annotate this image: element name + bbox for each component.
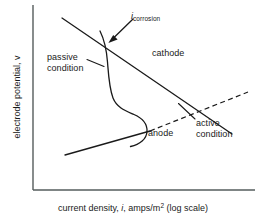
axis-lines <box>33 5 255 190</box>
active-condition-line <box>65 131 150 155</box>
y-axis-title-text: electrode potential, <box>12 60 22 139</box>
passive-condition-line2: condition <box>47 63 83 73</box>
y-axis-title: electrode potential, v <box>12 22 22 172</box>
x-axis-title: current density, i, amps/m2 (log scale) <box>0 203 266 213</box>
passive-condition-label: passivecondition <box>47 52 83 73</box>
active-condition-line2: condition <box>196 129 232 139</box>
passive-condition-line1: passive <box>47 52 78 62</box>
active-condition-line1: active <box>196 118 220 128</box>
icorrosion-label: icorrosion <box>131 11 160 23</box>
corrosion-arrow <box>108 19 133 43</box>
anode-label: anode <box>148 128 173 139</box>
x-axis-title-exponent: 2 <box>160 202 164 209</box>
active-condition-leader <box>179 104 196 120</box>
passive-condition-leader <box>87 60 104 67</box>
x-axis-title-part3: (log scale) <box>164 203 208 213</box>
y-axis-title-symbol: v <box>12 55 22 60</box>
plot-canvas <box>0 0 266 224</box>
icorrosion-subscript: corrosion <box>133 15 160 22</box>
cathode-label: cathode <box>152 48 184 59</box>
active-condition-label: activecondition <box>196 118 232 139</box>
x-axis-title-part1: current density, <box>58 203 121 213</box>
polarization-diagram-figure: icorrosion cathode passivecondition anod… <box>0 0 266 224</box>
x-axis-title-part2: , amps/m <box>123 203 160 213</box>
cathode-line <box>62 18 232 134</box>
